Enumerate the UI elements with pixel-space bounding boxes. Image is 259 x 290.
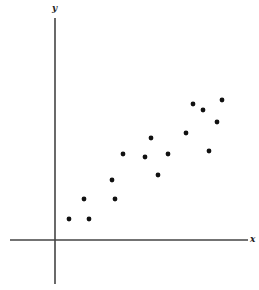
data-point xyxy=(191,102,196,107)
data-point xyxy=(166,152,171,157)
data-point xyxy=(67,217,72,222)
data-point xyxy=(82,197,87,202)
data-point xyxy=(220,98,225,103)
y-axis-label: y xyxy=(52,3,57,13)
data-point xyxy=(110,178,115,183)
data-point xyxy=(87,217,92,222)
data-point xyxy=(143,155,148,160)
data-point xyxy=(113,197,118,202)
data-points xyxy=(67,98,225,222)
x-axis-label: x xyxy=(250,234,255,244)
data-point xyxy=(201,108,206,113)
data-point xyxy=(184,131,189,136)
data-point xyxy=(149,136,154,141)
data-point xyxy=(215,120,220,125)
scatter-plot xyxy=(0,0,259,290)
data-point xyxy=(121,152,126,157)
data-point xyxy=(207,149,212,154)
data-point xyxy=(156,173,161,178)
